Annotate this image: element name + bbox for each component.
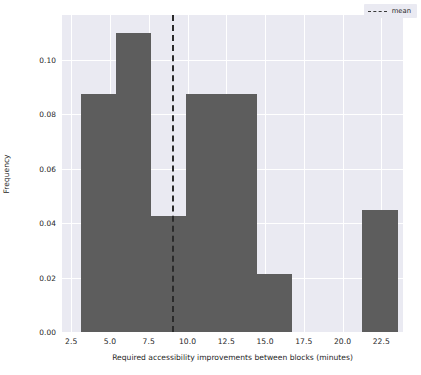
x-axis-tick-label: 17.5 (284, 337, 324, 346)
plot-area (62, 15, 403, 332)
x-axis-label: Required accessibility improvements betw… (62, 353, 403, 362)
gridline-vertical (343, 15, 344, 332)
x-axis-tick-label: 5.0 (90, 337, 130, 346)
histogram-bar (222, 94, 257, 332)
x-axis-tick-label: 10.0 (168, 337, 208, 346)
x-axis-tick-label: 2.5 (51, 337, 91, 346)
y-axis-tick-label: 0.04 (16, 219, 56, 228)
x-axis-tick-label: 12.5 (206, 337, 246, 346)
x-axis-tick-label: 20.0 (323, 337, 363, 346)
y-axis-tick-label: 0.10 (16, 55, 56, 64)
legend-label-mean: mean (392, 7, 411, 15)
histogram-bar (81, 94, 116, 332)
histogram-bar (186, 94, 221, 332)
y-axis-label: Frequency (2, 154, 11, 193)
histogram-bar (362, 210, 397, 332)
x-axis-tick-label: 15.0 (245, 337, 285, 346)
y-axis-tick-label: 0.02 (16, 273, 56, 282)
y-axis-tick-label: 0.08 (16, 110, 56, 119)
x-axis-tick-label: 7.5 (129, 337, 169, 346)
histogram-bar (257, 274, 292, 333)
legend-dashed-line-icon (368, 11, 387, 12)
histogram-bar (151, 216, 186, 332)
gridline-vertical (71, 15, 72, 332)
y-axis-tick-label: 0.00 (16, 328, 56, 337)
legend: mean (364, 4, 417, 18)
gridline-vertical (304, 15, 305, 332)
histogram-bar (116, 33, 151, 332)
y-axis-tick-label: 0.06 (16, 164, 56, 173)
mean-vertical-line (172, 15, 174, 332)
x-axis-tick-label: 22.5 (361, 337, 401, 346)
histogram-figure: 0.000.020.040.060.080.10 2.55.07.510.012… (0, 0, 421, 375)
gridline-horizontal (62, 60, 403, 61)
